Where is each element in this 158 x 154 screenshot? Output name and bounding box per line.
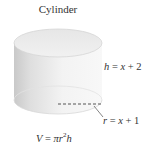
volume-var: V [36, 133, 42, 144]
equals-sign: = [112, 61, 118, 72]
radius-var: r [103, 115, 107, 126]
equals-sign: = [110, 115, 116, 126]
height-label: h = x + 2 [104, 61, 142, 72]
radius-label: r = x + 1 [103, 115, 139, 126]
height-expr-rest: + 2 [128, 61, 142, 72]
x-var: x [118, 115, 123, 126]
height-var: h [104, 61, 109, 72]
x-var: x [120, 61, 125, 72]
radius-expr-rest: + 1 [126, 115, 140, 126]
radius-leader-line [94, 106, 103, 117]
h-var: h [66, 133, 71, 144]
equals-sign: = [45, 133, 51, 144]
volume-formula: V = πr2h [36, 131, 72, 144]
cylinder-top-face [14, 29, 102, 57]
cylinder-icon [0, 0, 158, 154]
